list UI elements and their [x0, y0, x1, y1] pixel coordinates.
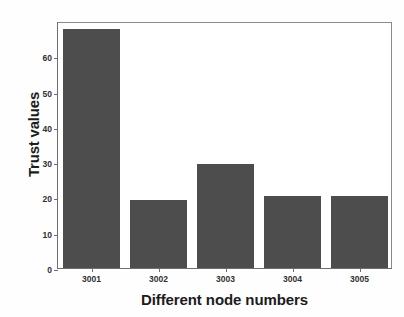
y-tick-mark [54, 58, 58, 59]
bar-3002 [130, 200, 188, 268]
bar-3003 [197, 164, 255, 268]
y-tick-mark [54, 199, 58, 200]
y-tick-mark [54, 164, 58, 165]
bar-3004 [264, 196, 322, 268]
y-tick-label: 60 [43, 53, 52, 63]
x-tick-label: 3005 [350, 274, 369, 284]
y-tick-label: 10 [43, 230, 52, 240]
y-tick-mark [54, 94, 58, 95]
bar-3001 [63, 29, 121, 268]
y-tick-label: 20 [43, 194, 52, 204]
y-axis-title: Trust values [25, 55, 42, 215]
x-tick-label: 3004 [283, 274, 302, 284]
x-tick-mark [226, 268, 227, 272]
x-tick-mark [92, 268, 93, 272]
x-tick-mark [360, 268, 361, 272]
y-tick-label: 0 [47, 265, 52, 275]
x-axis-title: Different node numbers [56, 291, 393, 308]
y-tick-label: 40 [43, 124, 52, 134]
y-tick-mark [54, 129, 58, 130]
y-tick-mark [54, 270, 58, 271]
x-tick-mark [293, 268, 294, 272]
x-tick-mark [159, 268, 160, 272]
bar-chart-figure: Trust values 0102030405060 3001300230033… [0, 0, 404, 317]
y-tick-mark [54, 235, 58, 236]
x-tick-label: 3002 [149, 274, 168, 284]
y-tick-label: 50 [43, 89, 52, 99]
plot-area: 0102030405060 30013002300330043005 [57, 22, 392, 269]
x-tick-label: 3001 [82, 274, 101, 284]
x-tick-label: 3003 [216, 274, 235, 284]
bar-3005 [331, 196, 389, 268]
y-tick-label: 30 [43, 159, 52, 169]
